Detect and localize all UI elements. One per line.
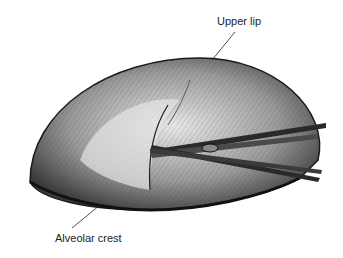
alveolar-crest-label: Alveolar crest (55, 232, 122, 244)
upper-lip-leader (212, 32, 235, 60)
surgical-illustration (0, 0, 343, 258)
alveolar-crest-leader (72, 205, 100, 228)
upper-lip-label: Upper lip (217, 15, 261, 27)
